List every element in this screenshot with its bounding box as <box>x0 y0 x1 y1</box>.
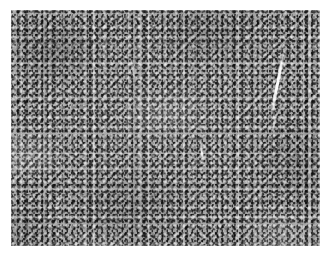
fiber-striation-layer-secondary <box>11 10 320 246</box>
histopathology-image <box>11 10 320 246</box>
micrograph-figure: Dense, monotonous sheet of small round c… <box>0 0 331 257</box>
